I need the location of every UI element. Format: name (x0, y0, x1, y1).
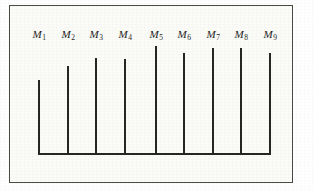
figure-root: M1 M2 M3 M4 M5 M6 M7 M8 M9 (0, 0, 314, 190)
figure-border-frame (9, 5, 293, 183)
